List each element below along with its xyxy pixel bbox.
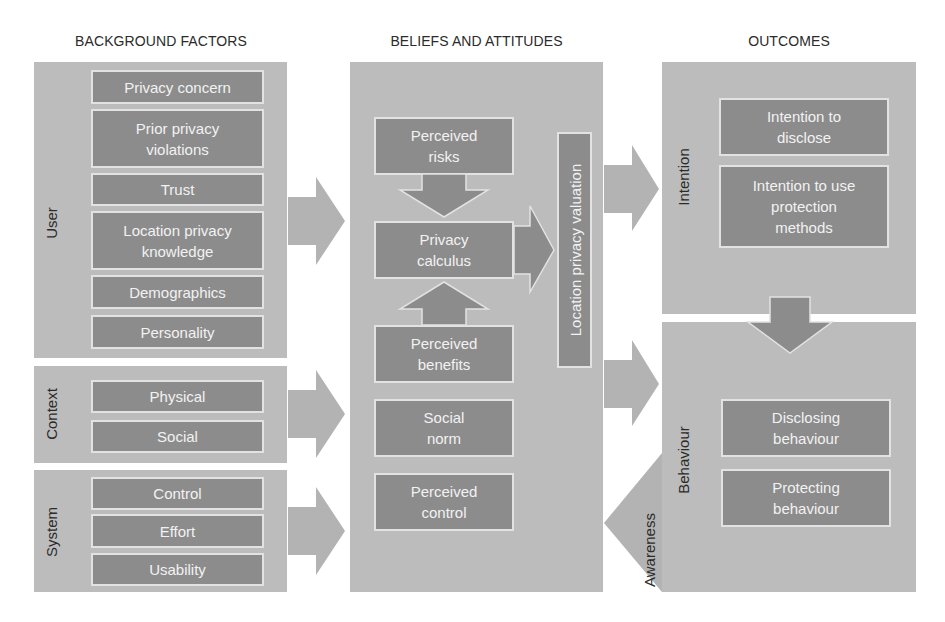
outcome-disclosing-behaviour: Disclosing behaviour (721, 399, 891, 457)
factor-physical: Physical (91, 380, 264, 413)
arrow-beliefs-to-behaviour-icon (604, 340, 660, 428)
factor-prior-privacy-violations: Prior privacy violations (91, 109, 264, 168)
arrow-risks-to-calculus-icon (400, 174, 490, 218)
factor-trust: Trust (91, 173, 264, 206)
arrow-context-to-beliefs-icon (288, 370, 346, 458)
belief-social-norm: Social norm (374, 399, 514, 457)
arrow-system-to-beliefs-icon (288, 487, 346, 575)
arrow-calculus-to-valuation-icon (514, 206, 556, 294)
heading-beliefs-attitudes: BELIEFS AND ATTITUDES (350, 33, 603, 49)
factor-privacy-concern: Privacy concern (91, 70, 264, 104)
outcome-intention-to-disclose: Intention to disclose (719, 98, 889, 156)
belief-privacy-calculus: Privacy calculus (374, 221, 514, 279)
system-label: System (43, 492, 63, 572)
factor-effort: Effort (91, 514, 264, 548)
user-label: User (43, 183, 63, 263)
intention-label: Intention (675, 132, 695, 222)
arrow-intention-to-behaviour-icon (745, 297, 835, 355)
behaviour-panel (662, 322, 916, 592)
arrow-user-to-beliefs-icon (288, 177, 346, 265)
factor-personality: Personality (91, 315, 264, 349)
awareness-label: Awareness (641, 505, 661, 595)
belief-perceived-benefits: Perceived benefits (374, 325, 514, 383)
factor-location-privacy-knowledge: Location privacy knowledge (91, 211, 264, 270)
outcome-protecting-behaviour: Protecting behaviour (721, 469, 891, 527)
behaviour-label: Behaviour (675, 415, 695, 505)
heading-outcomes: OUTCOMES (662, 33, 916, 49)
heading-background-factors: BACKGROUND FACTORS (34, 33, 288, 49)
factor-social: Social (91, 420, 264, 453)
outcome-intention-to-use-protection: Intention to use protection methods (719, 165, 889, 248)
belief-perceived-control: Perceived control (374, 473, 514, 531)
location-privacy-valuation: Location privacy valuation (557, 132, 592, 368)
context-label: Context (43, 374, 63, 454)
factor-usability: Usability (91, 553, 264, 586)
belief-perceived-risks: Perceived risks (374, 117, 514, 175)
factor-demographics: Demographics (91, 275, 264, 309)
arrow-benefits-to-calculus-icon (400, 282, 490, 326)
arrow-beliefs-to-intention-icon (604, 145, 660, 233)
location-privacy-valuation-label: Location privacy valuation (566, 164, 583, 337)
user-panel (34, 62, 287, 358)
factor-control: Control (91, 477, 264, 510)
